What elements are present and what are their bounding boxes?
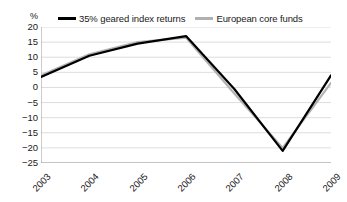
legend-label-geared-index: 35% geared index returns: [79, 13, 185, 24]
legend-swatch-black-line-icon: [58, 17, 76, 20]
series-line: [41, 36, 331, 151]
x-axis-tick-label: 2007: [217, 171, 246, 200]
y-axis-tick-labels: 20151050−5−10−15−20−25: [0, 0, 38, 202]
legend-entry-geared-index: 35% geared index returns: [58, 13, 185, 24]
x-axis-tick-label: 2006: [169, 171, 198, 200]
x-axis-tick-label: 2009: [314, 171, 343, 200]
series-lines: [41, 36, 331, 151]
y-axis-tick-label: 0: [4, 83, 38, 93]
y-axis-tick-label: 5: [4, 68, 38, 78]
y-axis-tick-label: −15: [4, 128, 38, 138]
x-axis-tick-label: 2004: [72, 171, 101, 200]
chart-container: 35% geared index returns European core f…: [0, 0, 347, 202]
y-axis-tick-label: −20: [4, 143, 38, 153]
y-axis-tick-label: −10: [4, 113, 38, 123]
plot-area: [41, 27, 331, 163]
x-axis-tick-label: 2008: [265, 171, 294, 200]
legend-label-european-core-funds: European core funds: [216, 13, 302, 24]
y-axis-tick-label: 20: [4, 22, 38, 32]
chart-legend: 35% geared index returns European core f…: [58, 10, 338, 26]
x-axis-tick-label: 2005: [120, 171, 149, 200]
y-axis-tick-label: −5: [4, 98, 38, 108]
plot-svg: [41, 27, 331, 163]
legend-entry-european-core-funds: European core funds: [195, 13, 302, 24]
y-axis-tick-label: −25: [4, 158, 38, 168]
y-axis-tick-label: 10: [4, 52, 38, 62]
y-axis-tick-label: 15: [4, 37, 38, 47]
legend-swatch-gray-line-icon: [195, 17, 213, 20]
series-line: [41, 38, 331, 148]
